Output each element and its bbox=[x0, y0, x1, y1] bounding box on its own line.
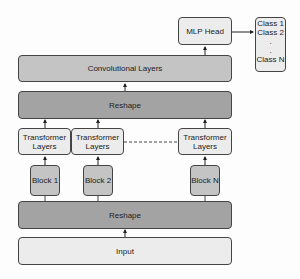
input-box: Input bbox=[18, 237, 232, 265]
block-label: Block 2 bbox=[85, 176, 111, 185]
ellipsis-dot: . bbox=[269, 37, 271, 46]
input-label: Input bbox=[116, 247, 134, 256]
transformer-layers-box-2: Transformer Layers bbox=[71, 128, 124, 155]
class-label: Class 1 bbox=[257, 19, 284, 28]
convolutional-layers-label: Convolutional Layers bbox=[88, 64, 163, 73]
reshape-bottom-label: Reshape bbox=[109, 211, 141, 220]
ellipsis-dot: . bbox=[269, 46, 271, 55]
mlp-head-label: MLP Head bbox=[186, 27, 224, 36]
transformer-layers-box-1: Transformer Layers bbox=[18, 128, 71, 155]
convolutional-layers-box: Convolutional Layers bbox=[18, 55, 232, 82]
block-1-box: Block 1 bbox=[30, 165, 60, 196]
transformer-label: Transformer bbox=[23, 133, 66, 142]
reshape-bottom-box: Reshape bbox=[18, 201, 232, 229]
reshape-top-label: Reshape bbox=[109, 101, 141, 110]
class-output-box: Class 1 Class 2 . . Class N bbox=[255, 17, 286, 72]
block-label: Block N bbox=[191, 176, 219, 185]
layers-label: Layers bbox=[85, 142, 109, 151]
transformer-label: Transformer bbox=[76, 133, 119, 142]
reshape-top-box: Reshape bbox=[18, 91, 232, 119]
class-label: Class 2 bbox=[257, 28, 284, 37]
architecture-diagram: MLP Head Class 1 Class 2 . . Class N Con… bbox=[0, 0, 300, 279]
layers-label: Layers bbox=[32, 142, 56, 151]
block-n-box: Block N bbox=[190, 165, 220, 196]
class-label: Class N bbox=[256, 55, 284, 64]
transformer-layers-box-n: Transformer Layers bbox=[178, 128, 232, 155]
layers-label: Layers bbox=[193, 142, 217, 151]
transformer-label: Transformer bbox=[183, 133, 226, 142]
block-2-box: Block 2 bbox=[83, 165, 113, 196]
mlp-head-box: MLP Head bbox=[178, 17, 232, 45]
block-label: Block 1 bbox=[32, 176, 58, 185]
